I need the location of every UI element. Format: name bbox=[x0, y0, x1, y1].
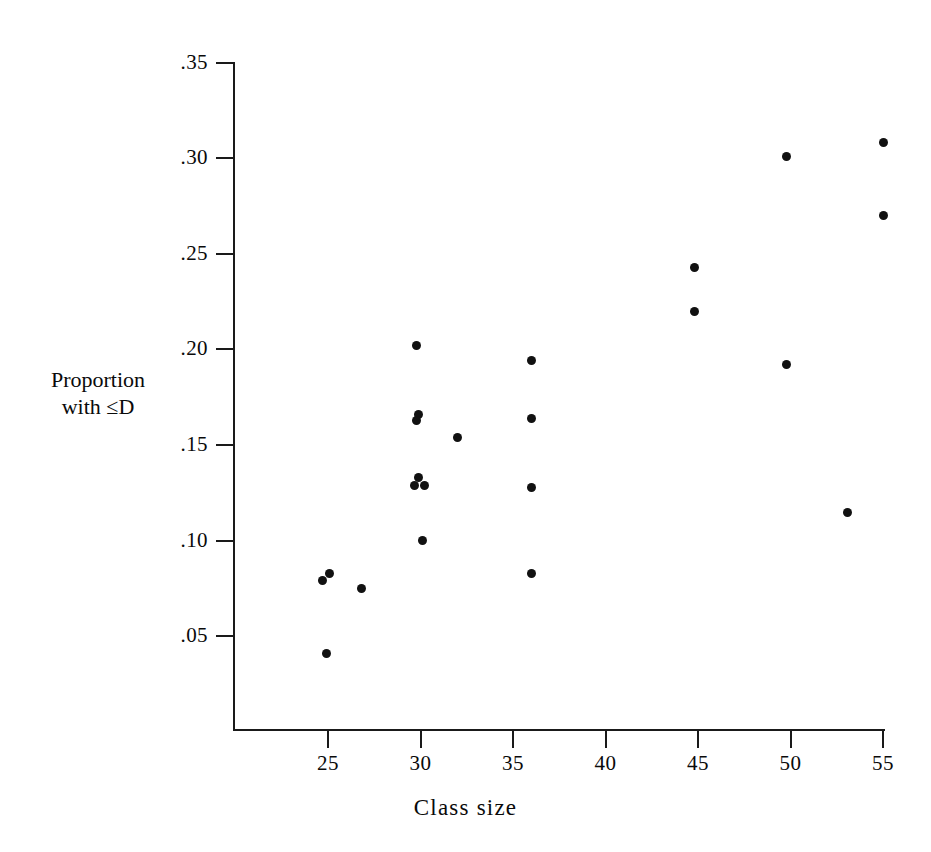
data-point bbox=[843, 508, 852, 517]
data-point bbox=[690, 263, 699, 272]
data-point bbox=[412, 416, 421, 425]
data-point bbox=[418, 536, 427, 545]
data-point bbox=[879, 211, 888, 220]
data-point bbox=[322, 649, 331, 658]
data-point bbox=[318, 576, 327, 585]
plot-area bbox=[0, 0, 931, 852]
data-point bbox=[410, 481, 419, 490]
data-point bbox=[357, 584, 366, 593]
data-point bbox=[782, 152, 791, 161]
data-point bbox=[412, 341, 421, 350]
scatter-plot-figure: .05.10.15.20.25.30.35 25303540455055 Pro… bbox=[0, 0, 931, 852]
data-point bbox=[527, 569, 536, 578]
data-point bbox=[420, 481, 429, 490]
data-point bbox=[782, 360, 791, 369]
data-point bbox=[690, 307, 699, 316]
data-point bbox=[527, 483, 536, 492]
data-point bbox=[325, 569, 334, 578]
data-point bbox=[527, 414, 536, 423]
data-point bbox=[453, 433, 462, 442]
data-point bbox=[527, 356, 536, 365]
data-point bbox=[879, 138, 888, 147]
